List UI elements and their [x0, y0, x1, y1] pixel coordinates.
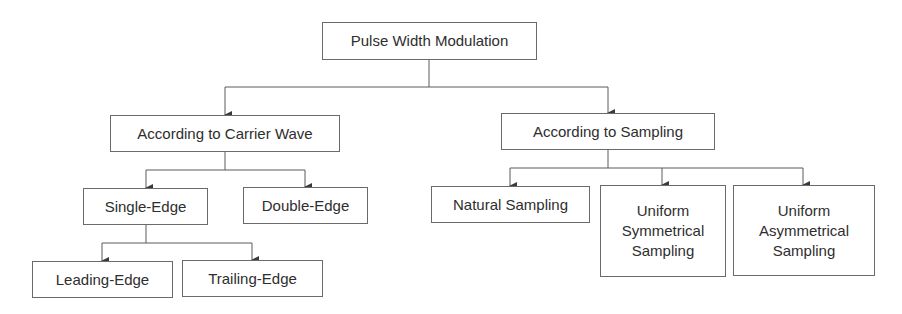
- node-trailing-edge: Trailing-Edge: [182, 260, 323, 297]
- node-label: According to Sampling: [533, 122, 683, 142]
- node-according-to-carrier-wave: According to Carrier Wave: [110, 115, 340, 152]
- node-label: Double-Edge: [262, 196, 350, 216]
- node-single-edge: Single-Edge: [83, 188, 208, 225]
- node-double-edge: Double-Edge: [243, 187, 368, 224]
- node-label-line-1: Uniform: [778, 201, 831, 221]
- node-pulse-width-modulation: Pulse Width Modulation: [322, 22, 537, 60]
- node-label: Natural Sampling: [453, 195, 568, 215]
- node-label: Pulse Width Modulation: [351, 31, 509, 51]
- node-label-line-1: Uniform: [637, 201, 690, 221]
- node-according-to-sampling: According to Sampling: [501, 113, 715, 150]
- node-label: According to Carrier Wave: [137, 124, 312, 144]
- node-leading-edge: Leading-Edge: [32, 261, 173, 298]
- node-label-line-3: Sampling: [773, 241, 836, 261]
- node-label: Leading-Edge: [56, 270, 149, 290]
- node-label: Trailing-Edge: [208, 269, 297, 289]
- node-natural-sampling: Natural Sampling: [431, 186, 590, 223]
- node-uniform-symmetrical-sampling: Uniform Symmetrical Sampling: [600, 185, 726, 277]
- node-label-line-2: Symmetrical: [622, 221, 705, 241]
- node-label: Single-Edge: [105, 197, 187, 217]
- node-uniform-asymmetrical-sampling: Uniform Asymmetrical Sampling: [733, 185, 875, 276]
- node-label-line-3: Sampling: [632, 241, 695, 261]
- node-label-line-2: Asymmetrical: [759, 221, 849, 241]
